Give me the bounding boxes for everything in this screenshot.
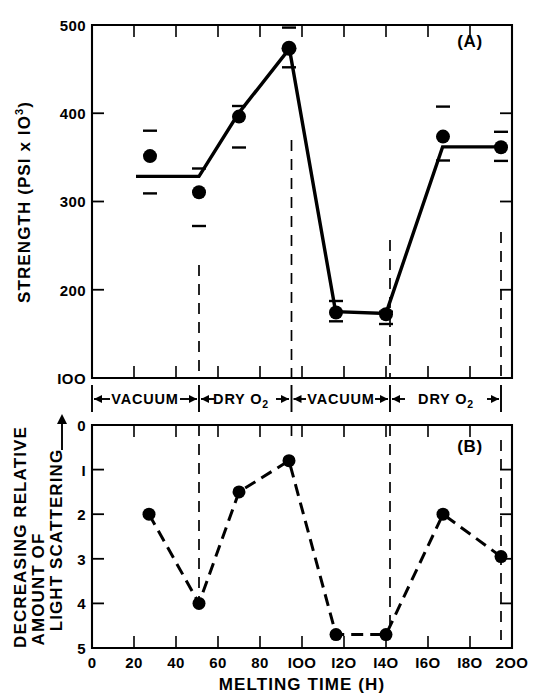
- y-tick-label: 4: [77, 595, 86, 612]
- x-tick-label: I4O: [373, 654, 398, 671]
- y-title-prefix: STRENGTH (PSI x IO: [15, 115, 34, 303]
- panel-a-trend-line: [136, 49, 501, 314]
- y-tick-label: 2: [77, 506, 86, 523]
- panel-b-separators: [199, 425, 501, 640]
- y-title-exponent: 3: [13, 108, 25, 115]
- y-tick-label: I: [81, 462, 86, 479]
- panel-b-y-tick-labels: 0 I 2 3 4 5: [77, 417, 86, 657]
- y-tick-label: 300: [60, 193, 86, 210]
- panel-b: 0 I 2 3 4 5 (B) 0 20 40 60 80 IOO I2O I4…: [11, 414, 528, 694]
- y-title-suffix: ): [15, 101, 34, 108]
- y-tick-label: 500: [60, 17, 86, 34]
- panel-a-y-ticks-right: [500, 113, 512, 290]
- panel-a-y-ticks: [92, 25, 104, 378]
- panel-a-tag: (A): [457, 32, 482, 51]
- x-tick-label: 20: [125, 654, 143, 671]
- panel-a-frame: [92, 25, 512, 378]
- panel-b-frame: [92, 425, 512, 648]
- y-tick-label: 200: [60, 282, 86, 299]
- condition-band: VACUUM DRY O2 VACUUM: [92, 385, 501, 412]
- y-axis-arrow-b-icon: [57, 414, 67, 450]
- band-label-dry-o2-2: DRY O2: [418, 391, 474, 410]
- panel-b-tag: (B): [457, 437, 482, 456]
- y-title-b-line3: LIGHT SCATTERING: [47, 449, 66, 632]
- panel-a-y-axis-title: STRENGTH (PSI x IO3): [13, 101, 34, 303]
- x-tick-label: 60: [209, 654, 227, 671]
- band-region-vacuum-2: VACUUM: [294, 391, 389, 407]
- panel-a-data-points: [143, 41, 508, 322]
- x-tick-label: I2O: [331, 654, 356, 671]
- x-tick-label: 40: [167, 654, 185, 671]
- band-label-vacuum-2: VACUUM: [307, 391, 374, 407]
- y-tick-label: IOO: [57, 370, 86, 387]
- panel-b-data-points: [143, 454, 508, 641]
- x-tick-label: 80: [251, 654, 269, 671]
- band-region-dry-o2-2: DRY O2: [392, 391, 499, 410]
- y-tick-label: 400: [60, 105, 86, 122]
- panel-a-separators: [199, 140, 501, 378]
- panel-b-x-tick-labels: 0 20 40 60 80 IOO I2O I4O I6O I8O 2OO: [88, 654, 529, 671]
- figure-root: 500 400 300 200 IOO (A) STRENGTH (PSI x …: [0, 0, 541, 695]
- panel-b-y-axis-title: DECREASING RELATIVE AMOUNT OF LIGHT SCAT…: [11, 414, 67, 648]
- panel-a-y-tick-labels: 500 400 300 200 IOO: [57, 17, 86, 387]
- x-tick-label: 2OO: [496, 654, 529, 671]
- x-tick-label: I6O: [415, 654, 440, 671]
- y-title-b-line2: AMOUNT OF: [29, 533, 48, 646]
- panel-a: 500 400 300 200 IOO (A) STRENGTH (PSI x …: [13, 17, 512, 387]
- x-tick-label: 0: [88, 654, 97, 671]
- band-region-vacuum-1: VACUUM: [94, 391, 197, 407]
- panel-b-x-ticks-bottom: [134, 636, 470, 648]
- x-tick-label: IOO: [288, 654, 317, 671]
- panel-b-y-ticks: [92, 425, 104, 648]
- panel-b-x-ticks-top: [134, 425, 470, 437]
- band-label-dry-o2-1: DRY O2: [213, 391, 269, 410]
- x-tick-label: I8O: [457, 654, 482, 671]
- x-axis-title: MELTING TIME (H): [219, 675, 385, 694]
- y-tick-label: 5: [77, 640, 86, 657]
- y-title-b-line1: DECREASING RELATIVE: [11, 426, 30, 648]
- band-region-dry-o2-1: DRY O2: [201, 391, 289, 410]
- panel-a-x-ticks-bottom: [134, 366, 470, 378]
- scientific-figure: 500 400 300 200 IOO (A) STRENGTH (PSI x …: [0, 0, 541, 695]
- svg-text:STRENGTH (PSI x IO3): STRENGTH (PSI x IO3): [13, 101, 34, 303]
- y-tick-label: 3: [77, 551, 86, 568]
- y-tick-label: 0: [77, 417, 86, 434]
- panel-a-x-ticks-top: [134, 25, 470, 37]
- band-label-vacuum-1: VACUUM: [111, 391, 178, 407]
